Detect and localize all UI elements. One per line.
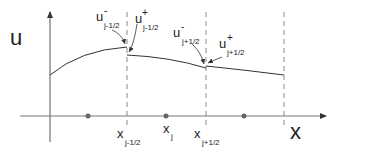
svg-text:+: + bbox=[142, 7, 148, 18]
reconstruction-curve-center bbox=[127, 55, 206, 68]
svg-text:j+1/2: j+1/2 bbox=[226, 48, 245, 57]
label-u-plus-j-minus-half: u + j-1/2 bbox=[135, 7, 159, 32]
svg-text:-: - bbox=[181, 21, 184, 32]
cell-center-dot bbox=[164, 114, 169, 119]
label-x-j: x j bbox=[163, 121, 173, 141]
arrow-u-plus-right bbox=[208, 57, 222, 63]
svg-text:j-1/2: j-1/2 bbox=[142, 23, 159, 32]
arrow-u-minus-left bbox=[112, 30, 125, 44]
arrow-u-minus-right bbox=[192, 44, 204, 64]
svg-text:j-1/2: j-1/2 bbox=[103, 21, 120, 30]
svg-text:j+1/2: j+1/2 bbox=[181, 37, 200, 46]
svg-text:u: u bbox=[219, 36, 226, 51]
svg-text:x: x bbox=[194, 126, 201, 141]
label-x-j-minus-half: x j-1/2 bbox=[117, 126, 141, 147]
svg-text:-: - bbox=[104, 5, 107, 16]
reconstruction-curve-right bbox=[206, 66, 284, 75]
svg-text:x: x bbox=[163, 121, 170, 136]
arrow-u-plus-left bbox=[129, 24, 137, 52]
svg-text:u: u bbox=[96, 9, 103, 24]
svg-text:j+1/2: j+1/2 bbox=[201, 138, 220, 147]
svg-text:j-1/2: j-1/2 bbox=[124, 138, 141, 147]
label-u-minus-j-plus-half: u - j+1/2 bbox=[173, 21, 200, 46]
svg-text:u: u bbox=[173, 25, 180, 40]
svg-text:x: x bbox=[117, 126, 124, 141]
cell-center-dot bbox=[86, 114, 91, 119]
label-u-plus-j-plus-half: u + j+1/2 bbox=[219, 32, 245, 57]
finite-volume-diagram: u x u - j-1/2 u + j-1/2 u - j+1/2 u + j+… bbox=[0, 0, 367, 154]
y-axis-label: u bbox=[10, 25, 22, 50]
svg-text:j: j bbox=[170, 132, 173, 141]
x-axis-label: x bbox=[290, 119, 301, 144]
cell-center-dot bbox=[242, 114, 247, 119]
label-u-minus-j-minus-half: u - j-1/2 bbox=[96, 5, 120, 30]
svg-text:+: + bbox=[227, 32, 233, 43]
label-x-j-plus-half: x j+1/2 bbox=[194, 126, 220, 147]
reconstruction-curve-left bbox=[50, 47, 127, 75]
